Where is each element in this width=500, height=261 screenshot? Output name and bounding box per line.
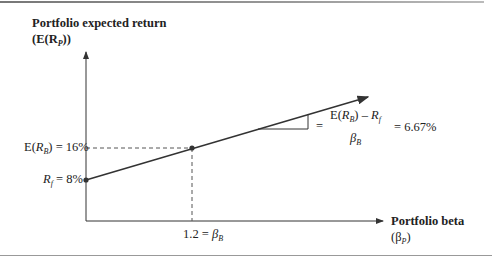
beta-b-label: 1.2 = βB bbox=[183, 227, 223, 243]
market-return-label: E(RB) = 16% bbox=[24, 140, 89, 156]
slope-numerator: E(RB) – Rf bbox=[330, 108, 381, 124]
x-axis-symbol: (βP) bbox=[391, 230, 411, 246]
y-axis-title: Portfolio expected return bbox=[32, 16, 166, 31]
x-axis-title: Portfolio beta bbox=[391, 214, 464, 229]
slope-denominator: βB bbox=[350, 131, 361, 147]
slope-value: = 6.67% bbox=[394, 120, 436, 135]
risk-free-label: Rf = 8% bbox=[43, 172, 83, 188]
security-market-line bbox=[86, 97, 368, 180]
rf-point bbox=[83, 177, 88, 182]
market-point bbox=[189, 145, 194, 150]
slope-equals: = bbox=[316, 119, 323, 134]
y-axis-symbol: (E(RP)) bbox=[32, 32, 71, 48]
